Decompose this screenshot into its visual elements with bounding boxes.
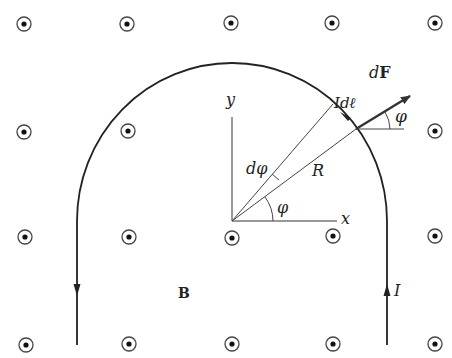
idl-label: Idℓ: [333, 94, 356, 112]
field-dot-icon: [326, 229, 340, 243]
field-dot-icon: [120, 17, 134, 31]
field-dot-icon: [225, 231, 239, 245]
x-axis-label: x: [341, 209, 350, 228]
phi-angle-arc: [265, 197, 273, 221]
current-arrow-down-icon: [74, 284, 81, 296]
field-dot-icon: [17, 17, 31, 31]
field-dot-icon: [18, 230, 32, 244]
phi-element-angle-arc: [385, 112, 390, 129]
current-I-label: I: [393, 281, 401, 300]
field-dot-icon: [326, 337, 340, 351]
field-dot-icon: [428, 16, 442, 30]
field-dot-icon: [122, 337, 136, 351]
dF-label: dF: [369, 63, 391, 82]
phi-center-label: φ: [277, 198, 289, 217]
field-dot-icon: [225, 337, 239, 351]
radius-label: R: [311, 161, 324, 180]
field-dot-icon: [224, 16, 238, 30]
phi-element-label: φ: [395, 106, 407, 126]
field-dot-icon: [428, 229, 442, 243]
field-dot-icon: [122, 230, 136, 244]
field-dot-icon: [428, 124, 442, 138]
field-dot-icon: [121, 124, 135, 138]
field-dot-icon: [17, 125, 31, 139]
diagram-canvas: dF Idℓ φ y x dφ R φ B I: [0, 0, 452, 358]
field-dot-icon: [428, 337, 442, 351]
dphi-label: dφ: [246, 159, 268, 178]
field-dot-icon: [19, 338, 33, 352]
y-axis-label: y: [225, 90, 236, 109]
field-B-label: B: [178, 285, 190, 301]
field-dot-icon: [325, 16, 339, 30]
current-arrow-up-icon: [384, 284, 391, 296]
dphi-tick: [272, 174, 279, 180]
